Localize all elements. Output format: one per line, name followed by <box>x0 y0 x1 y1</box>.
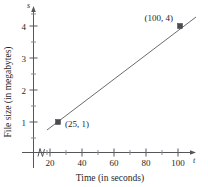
data-point-label-100-4: (100, 4) <box>145 13 174 23</box>
x-axis-break-icon <box>38 149 45 157</box>
x-tick-label-80: 80 <box>142 158 152 168</box>
y-tick-label-4: 4 <box>22 22 27 32</box>
x-tick-label-40: 40 <box>78 158 88 168</box>
y-axis-title: File size (in megabytes) <box>3 46 14 137</box>
y-tick-label-1: 1 <box>22 118 27 128</box>
y-tick-label-3: 3 <box>22 54 27 64</box>
x-axis-title: Time (in seconds) <box>76 173 144 184</box>
data-point-marker-100-4 <box>178 24 183 29</box>
x-axis-arrow-icon <box>190 150 196 155</box>
x-tick-label-60: 60 <box>110 158 120 168</box>
y-axis-variable-label: s <box>27 1 30 10</box>
y-axis-arrow-icon <box>31 6 36 12</box>
chart-figure: 20 40 60 80 100 1 2 3 4 s t (25, 1) (100… <box>0 0 208 187</box>
x-axis-variable-label: t <box>193 156 196 165</box>
data-series-line <box>47 17 196 130</box>
x-tick-label-20: 20 <box>46 158 56 168</box>
y-tick-label-2: 2 <box>22 86 27 96</box>
data-point-marker-25-1 <box>56 120 61 125</box>
data-point-label-25-1: (25, 1) <box>65 119 89 129</box>
x-tick-label-100: 100 <box>171 158 185 168</box>
line-chart: 20 40 60 80 100 1 2 3 4 s t (25, 1) (100… <box>0 0 208 187</box>
